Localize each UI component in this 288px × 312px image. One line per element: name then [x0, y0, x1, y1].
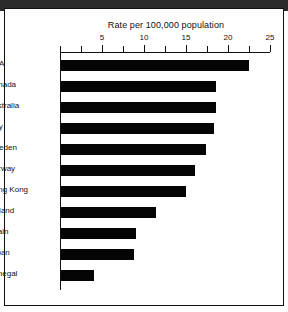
x-axis-major-tick [228, 45, 229, 52]
x-axis-minor-tick [81, 46, 82, 52]
category-label: Japan [0, 248, 68, 257]
category-label: Australia [0, 101, 68, 110]
bar [61, 249, 134, 260]
x-axis-tick-label: 25 [266, 33, 275, 42]
bar [61, 270, 94, 281]
x-axis-tick-label: 5 [100, 33, 104, 42]
bar [61, 207, 156, 218]
bar-row: Australia [0, 99, 288, 120]
bar-row: USA [0, 57, 288, 78]
x-axis-tick-label: 10 [140, 33, 149, 42]
x-axis: 510152025 [60, 45, 270, 57]
x-axis-tick-label: 15 [182, 33, 191, 42]
bar-row: Sweden [0, 141, 288, 162]
x-axis-tick-label: 20 [224, 33, 233, 42]
bar [61, 186, 186, 197]
bar [61, 123, 214, 134]
category-label: Hong Kong [0, 185, 68, 194]
bar-row: Senegal [0, 267, 288, 288]
category-label: Canada [0, 80, 68, 89]
bar-row: Spain [0, 225, 288, 246]
category-label: USA [0, 59, 68, 68]
bar [61, 102, 216, 113]
bar-row: Italy [0, 120, 288, 141]
bar [61, 81, 216, 92]
bar [61, 144, 206, 155]
x-axis-major-tick [270, 45, 271, 52]
plot-area: Rate per 100,000 population 510152025 US… [0, 0, 288, 312]
bar-row: Hong Kong [0, 183, 288, 204]
bar-rows: USACanadaAustraliaItalySwedenNorwayHong … [0, 57, 288, 288]
x-axis-line [60, 52, 270, 53]
x-axis-minor-tick [123, 46, 124, 52]
bar-row: Norway [0, 162, 288, 183]
x-axis-major-tick [186, 45, 187, 52]
category-label: Spain [0, 227, 68, 236]
x-axis-minor-tick [165, 46, 166, 52]
x-axis-major-tick [102, 45, 103, 52]
category-label: Finland [0, 206, 68, 215]
category-label: Sweden [0, 143, 68, 152]
category-label: Italy [0, 122, 68, 131]
chart-title: Rate per 100,000 population [60, 20, 272, 30]
bar [61, 60, 249, 71]
x-axis-minor-tick [207, 46, 208, 52]
category-label: Norway [0, 164, 68, 173]
bar [61, 165, 195, 176]
bar-row: Canada [0, 78, 288, 99]
chart-figure: Rate per 100,000 population 510152025 US… [0, 0, 288, 312]
bar [61, 228, 136, 239]
bar-row: Finland [0, 204, 288, 225]
x-axis-major-tick [144, 45, 145, 52]
category-label: Senegal [0, 269, 68, 278]
x-axis-minor-tick [249, 46, 250, 52]
bar-row: Japan [0, 246, 288, 267]
